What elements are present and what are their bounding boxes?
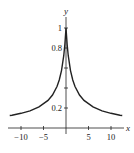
plot-area: −10−55100.20.81 x y (0, 0, 134, 153)
x-tick-label: 10 (107, 132, 116, 142)
y-tick-label: 1 (58, 23, 62, 33)
chart: −10−55100.20.81 x y (0, 0, 134, 153)
y-tick-label: 0.2 (51, 103, 62, 113)
x-tick-label: 5 (86, 132, 90, 142)
x-tick-label: −10 (14, 132, 27, 142)
x-tick-label: −5 (39, 132, 48, 142)
y-axis-label: y (63, 6, 68, 16)
x-axis-label: x (125, 123, 130, 133)
y-tick-label: 0.8 (51, 43, 62, 53)
